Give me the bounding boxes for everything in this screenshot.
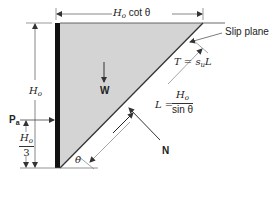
length-denominator: sin θ	[172, 104, 193, 115]
height-sub: o	[38, 90, 42, 98]
slip-plane-diagram: Ho cot θ Ho W Pa Ho 3 θ Slip plane T = s…	[0, 0, 273, 204]
angle-label: θ	[75, 155, 81, 165]
normal-force-arrow	[129, 108, 160, 140]
active-force-label: Pa	[9, 115, 20, 126]
retaining-wall	[55, 23, 60, 168]
length-lhs: L =	[155, 100, 173, 110]
height-label: Ho	[29, 86, 42, 98]
shear-label: T = suL	[174, 57, 212, 69]
length-fraction: Ho sin θ	[172, 90, 193, 115]
pa-sub: a	[16, 119, 20, 126]
third-height-fraction: Ho 3	[19, 133, 34, 158]
height-symbol: H	[29, 85, 38, 96]
slip-plane-label: Slip plane	[225, 27, 269, 37]
length-numerator: Ho	[172, 90, 193, 104]
third-numerator: Ho	[19, 133, 34, 147]
top-dim-symbol: H	[113, 7, 122, 18]
top-dimension-label: Ho cot θ	[113, 8, 150, 20]
weight-label: W	[100, 86, 109, 96]
pa-symbol: P	[9, 114, 16, 125]
third-denominator: 3	[19, 147, 34, 158]
top-dim-suffix: cot θ	[126, 7, 150, 18]
shear-arrow	[113, 113, 133, 133]
normal-force-label: N	[162, 146, 169, 156]
